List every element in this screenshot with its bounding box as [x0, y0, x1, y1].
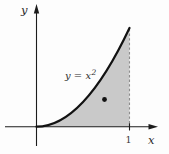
y-axis-arrowhead-icon	[34, 4, 39, 14]
y-axis-label: y	[20, 3, 28, 17]
parabola-area-figure: y x 1 y = x 2	[0, 0, 169, 154]
sample-point-dot	[102, 97, 107, 102]
equation-exponent: 2	[91, 68, 97, 77]
equation-label: y = x	[64, 70, 91, 81]
x-axis-label: x	[148, 133, 155, 147]
x-tick-1-label: 1	[125, 134, 131, 145]
x-axis-arrowhead-icon	[149, 124, 159, 130]
plot-canvas: y x 1 y = x 2	[0, 0, 169, 154]
